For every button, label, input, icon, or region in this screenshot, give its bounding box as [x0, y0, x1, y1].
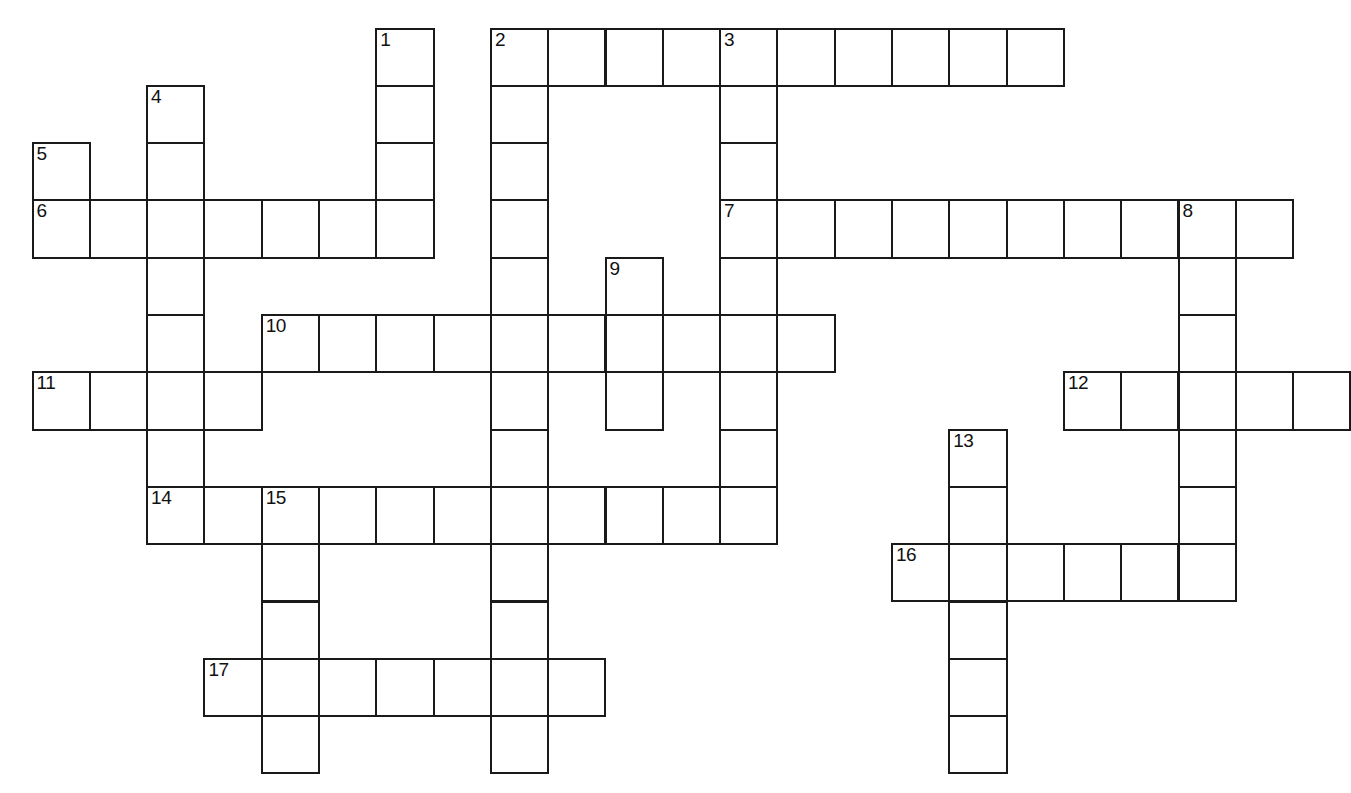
crossword-cell[interactable]	[1235, 371, 1294, 430]
crossword-cell[interactable]	[891, 199, 950, 258]
crossword-cell[interactable]	[203, 199, 262, 258]
crossword-cell[interactable]	[318, 314, 377, 373]
crossword-cell[interactable]	[547, 314, 606, 373]
crossword-cell[interactable]	[662, 486, 721, 545]
crossword-cell[interactable]	[490, 658, 549, 717]
crossword-cell[interactable]	[719, 486, 778, 545]
crossword-cell[interactable]	[375, 486, 434, 545]
crossword-cell-start-5[interactable]: 5	[32, 142, 91, 201]
crossword-cell-start-8[interactable]: 8	[1178, 199, 1237, 258]
crossword-cell-start-3[interactable]: 3	[719, 28, 778, 87]
crossword-cell[interactable]	[1006, 28, 1065, 87]
crossword-cell[interactable]	[490, 715, 549, 774]
crossword-cell[interactable]	[318, 199, 377, 258]
crossword-cell[interactable]	[318, 486, 377, 545]
crossword-cell-start-12[interactable]: 12	[1063, 371, 1122, 430]
crossword-cell[interactable]	[490, 85, 549, 144]
crossword-cell-start-7[interactable]: 7	[719, 199, 778, 258]
crossword-cell[interactable]	[891, 28, 950, 87]
crossword-cell[interactable]	[719, 142, 778, 201]
crossword-cell[interactable]	[261, 658, 320, 717]
crossword-cell[interactable]	[375, 314, 434, 373]
crossword-cell[interactable]	[948, 715, 1007, 774]
crossword-cell[interactable]	[375, 85, 434, 144]
crossword-cell[interactable]	[1120, 199, 1179, 258]
crossword-cell[interactable]	[605, 314, 664, 373]
crossword-cell[interactable]	[146, 429, 205, 488]
crossword-cell[interactable]	[948, 28, 1007, 87]
crossword-cell[interactable]	[948, 601, 1007, 660]
crossword-cell[interactable]	[490, 543, 549, 602]
crossword-cell-start-9[interactable]: 9	[605, 257, 664, 316]
crossword-cell[interactable]	[203, 371, 262, 430]
crossword-cell[interactable]	[1178, 543, 1237, 602]
crossword-cell[interactable]	[1292, 371, 1351, 430]
crossword-cell[interactable]	[1178, 429, 1237, 488]
crossword-cell[interactable]	[662, 314, 721, 373]
crossword-cell[interactable]	[146, 199, 205, 258]
crossword-cell[interactable]	[834, 28, 893, 87]
crossword-cell[interactable]	[1235, 199, 1294, 258]
crossword-cell[interactable]	[1178, 257, 1237, 316]
crossword-cell[interactable]	[490, 371, 549, 430]
crossword-cell[interactable]	[1178, 371, 1237, 430]
crossword-cell[interactable]	[1063, 543, 1122, 602]
crossword-cell[interactable]	[776, 199, 835, 258]
crossword-cell[interactable]	[719, 371, 778, 430]
crossword-cell[interactable]	[261, 199, 320, 258]
crossword-cell[interactable]	[375, 658, 434, 717]
crossword-cell-start-16[interactable]: 16	[891, 543, 950, 602]
crossword-cell[interactable]	[662, 28, 721, 87]
crossword-cell[interactable]	[89, 371, 148, 430]
crossword-cell[interactable]	[490, 486, 549, 545]
crossword-cell-start-15[interactable]: 15	[261, 486, 320, 545]
crossword-cell[interactable]	[433, 658, 492, 717]
crossword-cell[interactable]	[1063, 199, 1122, 258]
crossword-cell[interactable]	[948, 658, 1007, 717]
crossword-cell-start-4[interactable]: 4	[146, 85, 205, 144]
crossword-cell[interactable]	[375, 199, 434, 258]
crossword-cell[interactable]	[490, 142, 549, 201]
crossword-cell[interactable]	[490, 257, 549, 316]
crossword-cell[interactable]	[948, 199, 1007, 258]
crossword-cell[interactable]	[433, 314, 492, 373]
crossword-cell[interactable]	[375, 142, 434, 201]
crossword-cell[interactable]	[261, 601, 320, 660]
crossword-cell[interactable]	[776, 314, 835, 373]
crossword-cell[interactable]	[1178, 486, 1237, 545]
crossword-cell[interactable]	[490, 601, 549, 660]
crossword-cell-start-13[interactable]: 13	[948, 429, 1007, 488]
crossword-cell-start-6[interactable]: 6	[32, 199, 91, 258]
crossword-cell[interactable]	[89, 199, 148, 258]
crossword-cell[interactable]	[547, 486, 606, 545]
crossword-cell-start-17[interactable]: 17	[203, 658, 262, 717]
crossword-cell[interactable]	[948, 486, 1007, 545]
crossword-cell[interactable]	[146, 142, 205, 201]
crossword-cell[interactable]	[203, 486, 262, 545]
crossword-cell[interactable]	[547, 28, 606, 87]
crossword-cell[interactable]	[261, 715, 320, 774]
crossword-cell[interactable]	[547, 658, 606, 717]
crossword-cell[interactable]	[719, 85, 778, 144]
crossword-cell[interactable]	[719, 314, 778, 373]
crossword-cell[interactable]	[1006, 543, 1065, 602]
crossword-cell[interactable]	[834, 199, 893, 258]
crossword-cell[interactable]	[146, 257, 205, 316]
crossword-cell[interactable]	[261, 543, 320, 602]
crossword-cell[interactable]	[490, 429, 549, 488]
crossword-cell-start-11[interactable]: 11	[32, 371, 91, 430]
crossword-cell[interactable]	[776, 28, 835, 87]
crossword-cell[interactable]	[433, 486, 492, 545]
crossword-cell[interactable]	[490, 314, 549, 373]
crossword-cell[interactable]	[146, 314, 205, 373]
crossword-cell[interactable]	[719, 257, 778, 316]
crossword-cell-start-2[interactable]: 2	[490, 28, 549, 87]
crossword-cell[interactable]	[490, 199, 549, 258]
crossword-cell-start-1[interactable]: 1	[375, 28, 434, 87]
crossword-cell[interactable]	[719, 429, 778, 488]
crossword-cell[interactable]	[146, 371, 205, 430]
crossword-cell[interactable]	[1120, 371, 1179, 430]
crossword-cell-start-14[interactable]: 14	[146, 486, 205, 545]
crossword-cell[interactable]	[1006, 199, 1065, 258]
